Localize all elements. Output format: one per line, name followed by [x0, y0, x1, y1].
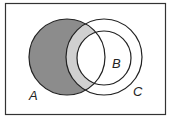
venn-diagram: A B C	[0, 0, 170, 119]
label-b: B	[112, 56, 121, 71]
label-a: A	[28, 88, 38, 103]
label-c: C	[133, 84, 143, 99]
